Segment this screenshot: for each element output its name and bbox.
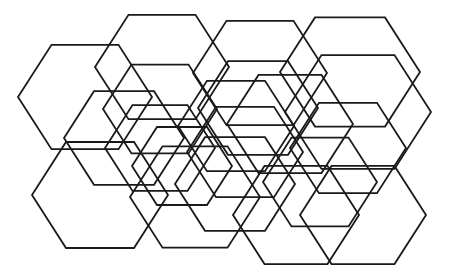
hexagon-outline [103, 65, 217, 154]
hexagon-outline [233, 166, 359, 264]
hexagon-outline [193, 21, 327, 125]
hexagon-diagram [0, 0, 453, 279]
hexagon-outline [263, 138, 377, 227]
hexagon-outline [18, 45, 152, 149]
hexagon-outline [227, 75, 353, 173]
hexagon-outline [32, 142, 168, 248]
hexagon-outline [300, 166, 426, 264]
